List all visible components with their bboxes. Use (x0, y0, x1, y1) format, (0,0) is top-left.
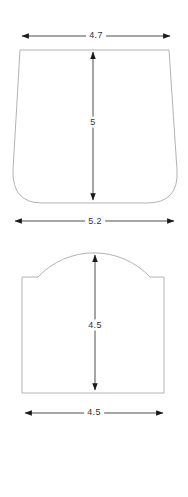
dim-label-vessel-bottom-width: 5.2 (85, 216, 105, 227)
drawing-canvas: 4.7 5 5.2 4.5 4.5 (0, 0, 188, 497)
dim-label-panel-height: 4.5 (85, 320, 105, 331)
dim-label-vessel-height: 5 (87, 117, 98, 128)
dim-label-panel-width: 4.5 (84, 407, 104, 418)
diagram-svg (0, 0, 188, 497)
dim-label-vessel-top-width: 4.7 (86, 30, 106, 41)
